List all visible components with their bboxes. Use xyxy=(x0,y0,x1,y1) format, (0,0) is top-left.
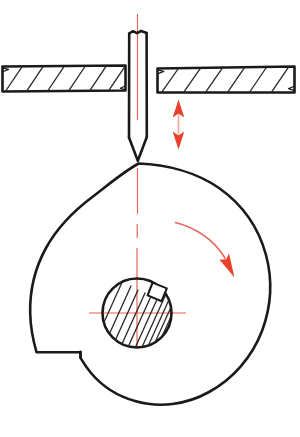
vertical-centerline xyxy=(137,14,138,348)
cam-mechanism-drawing: Cam and Knife-Edge Follower Mechanism ve… xyxy=(0,0,300,437)
drawing-canvas xyxy=(0,0,300,437)
